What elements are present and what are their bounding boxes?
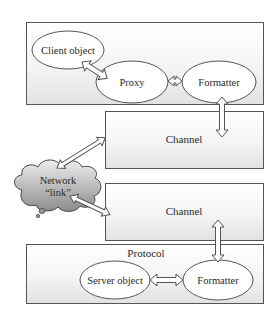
- channel-box-top: Channel: [106, 112, 264, 169]
- cloud-tail-bubble-small-icon: [36, 214, 40, 217]
- node-server-object: Server object: [80, 261, 150, 299]
- channel-bottom-label: Channel: [166, 205, 203, 217]
- cloud-tail-bubble-icon: [39, 209, 45, 214]
- node-client-object: Client object: [32, 31, 104, 69]
- diagram-canvas: Channel Channel Protocol Client object P…: [0, 0, 277, 319]
- formatter-server-label: Formatter: [197, 275, 239, 286]
- node-formatter-client: Formatter: [182, 61, 256, 103]
- cloud-label-line2: “link”: [45, 187, 71, 198]
- channel-top-label: Channel: [166, 133, 203, 145]
- formatter-client-label: Formatter: [198, 77, 240, 88]
- node-proxy: Proxy: [96, 61, 168, 103]
- protocol-label: Protocol: [127, 247, 164, 259]
- network-link-cloud: Network “link”: [15, 160, 101, 218]
- cloud-label-line1: Network: [40, 175, 77, 186]
- proxy-label: Proxy: [119, 77, 145, 88]
- node-formatter-server: Formatter: [183, 260, 253, 300]
- server-object-label: Server object: [87, 275, 143, 286]
- channel-box-bottom: Channel: [106, 184, 264, 241]
- client-object-label: Client object: [41, 45, 95, 56]
